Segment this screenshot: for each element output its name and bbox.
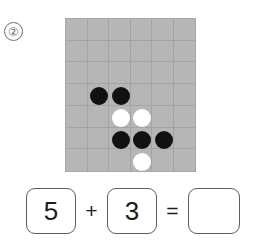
first-operand-box: 5 <box>26 188 76 234</box>
answer-input-box[interactable] <box>188 188 240 234</box>
stone-black-3 <box>112 131 130 149</box>
board-stones <box>66 19 195 171</box>
stone-black-1 <box>90 87 108 105</box>
equation-row: 5 + 3 = <box>26 187 258 235</box>
plus-operator: + <box>76 199 107 223</box>
stone-white-2 <box>133 109 151 127</box>
stone-white-1 <box>112 109 130 127</box>
second-operand-box: 3 <box>107 188 157 234</box>
go-board <box>65 18 196 172</box>
stone-black-4 <box>133 131 151 149</box>
stone-black-2 <box>112 87 130 105</box>
problem-number-badge: ② <box>4 22 23 41</box>
stone-black-5 <box>155 131 173 149</box>
equals-operator: = <box>157 199 188 223</box>
stone-white-3 <box>133 153 151 171</box>
